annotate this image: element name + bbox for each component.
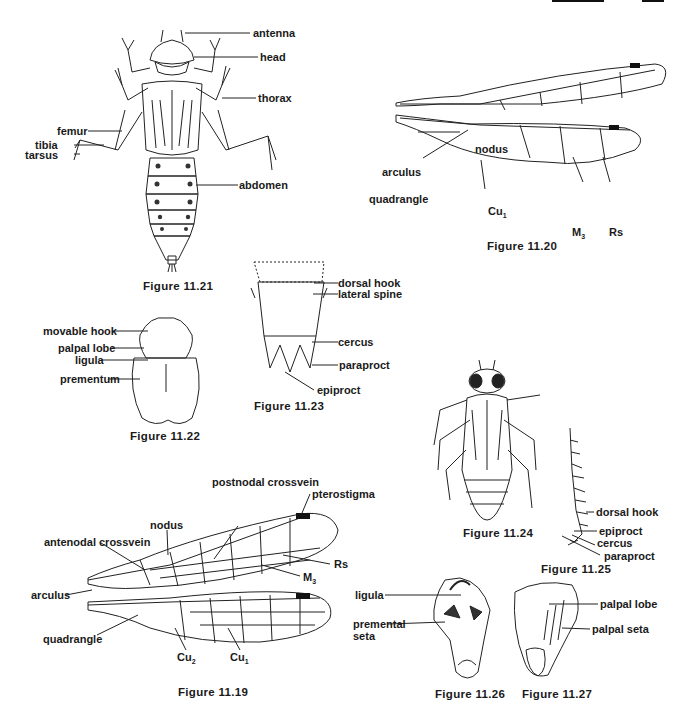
caption-figure-11-21: Figure 11.21 xyxy=(143,280,213,292)
label-antenna: antenna xyxy=(253,27,295,39)
label-paraproct-lateral: paraproct xyxy=(604,550,655,562)
label-cu1: Cu1 xyxy=(488,205,507,222)
caption-figure-11-24: Figure 11.24 xyxy=(463,527,533,539)
cu-text: Cu xyxy=(230,651,245,663)
caption-figure-11-25: Figure 11.25 xyxy=(541,563,611,575)
label-seta: seta xyxy=(353,630,375,642)
label-palpal-seta: palpal seta xyxy=(592,623,649,635)
m-subscript: 3 xyxy=(581,233,585,240)
cu-subscript: 1 xyxy=(503,212,507,219)
m-subscript: 3 xyxy=(312,578,316,585)
label-lateral-spine: lateral spine xyxy=(338,288,402,300)
label-nodus-large: nodus xyxy=(150,519,183,531)
nymph-lateral-illustration xyxy=(562,428,588,545)
label-quadrangle: quadrangle xyxy=(369,193,428,205)
label-femur: femur xyxy=(57,125,88,137)
label-quadrangle-large: quadrangle xyxy=(43,633,102,645)
label-thorax: thorax xyxy=(258,92,292,104)
label-arculus-large: arculus xyxy=(31,589,70,601)
label-ligula: ligula xyxy=(75,354,104,366)
label-movable-hook: movable hook xyxy=(43,325,117,337)
dragonfly-wings-illustration xyxy=(88,513,338,643)
labium-dorsal-illustration xyxy=(434,578,490,678)
label-cercus: cercus xyxy=(338,336,373,348)
label-pterostigma: pterostigma xyxy=(312,488,375,500)
m-text: M xyxy=(303,571,312,583)
damselfly-wings-illustration xyxy=(396,64,666,164)
abdomen-tip-illustration xyxy=(251,262,327,372)
label-premental: premental xyxy=(353,618,406,630)
label-epiproct: epiproct xyxy=(317,384,360,396)
label-cu2: Cu2 xyxy=(177,651,196,668)
label-head: head xyxy=(260,51,286,63)
m-text: M xyxy=(572,226,581,238)
label-ligula-small: ligula xyxy=(355,589,384,601)
caption-figure-11-26: Figure 11.26 xyxy=(435,688,505,700)
label-tarsus: tarsus xyxy=(25,149,58,161)
caption-figure-11-19: Figure 11.19 xyxy=(178,686,248,698)
label-prementum: prementum xyxy=(60,373,120,385)
label-cercus-lateral: cercus xyxy=(597,537,632,549)
larva-ventral-illustration xyxy=(74,30,276,272)
label-arculus: arculus xyxy=(382,166,421,178)
cu-text: Cu xyxy=(488,205,503,217)
label-dorsal-hook-lateral: dorsal hook xyxy=(596,506,658,518)
label-palpal-lobe-small: palpal lobe xyxy=(600,598,657,610)
label-rs: Rs xyxy=(609,226,623,238)
caption-figure-11-20: Figure 11.20 xyxy=(487,240,557,252)
cu-subscript: 2 xyxy=(192,658,196,665)
label-paraproct: paraproct xyxy=(339,359,390,371)
cu-text: Cu xyxy=(177,651,192,663)
label-palpal-lobe: palpal lobe xyxy=(58,342,115,354)
label-m3-large: M3 xyxy=(303,571,316,588)
label-antenodal-crossvein: antenodal crossvein xyxy=(44,536,150,548)
label-m3: M3 xyxy=(572,226,585,243)
palpal-lobe-illustration xyxy=(514,583,578,676)
nymph-dorsal-illustration xyxy=(434,360,540,520)
label-abdomen: abdomen xyxy=(239,179,288,191)
label-postnodal-crossvein: postnodal crossvein xyxy=(212,476,319,488)
caption-figure-11-27: Figure 11.27 xyxy=(522,688,592,700)
label-cu1-large: Cu1 xyxy=(230,651,249,668)
caption-figure-11-22: Figure 11.22 xyxy=(130,430,200,442)
label-epiproct-lateral: epiproct xyxy=(599,525,642,537)
labium-illustration xyxy=(132,318,199,424)
cu-subscript: 1 xyxy=(245,658,249,665)
caption-figure-11-23: Figure 11.23 xyxy=(254,400,324,412)
label-rs-large: Rs xyxy=(334,558,348,570)
label-nodus: nodus xyxy=(475,143,508,155)
